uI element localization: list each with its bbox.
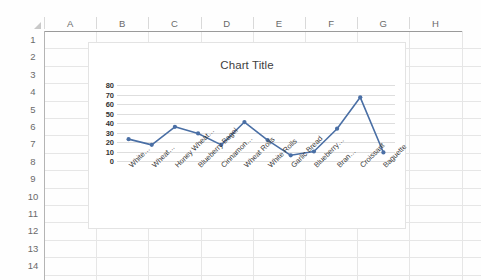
chart-x-axis-labels: White…Wheat…Honey Wheat…Blueberry BagelC…: [117, 163, 395, 225]
column-header-f[interactable]: F: [305, 16, 357, 31]
column-header-separator[interactable]: [253, 17, 254, 29]
column-header-a[interactable]: A: [44, 16, 96, 31]
column-header-separator[interactable]: [357, 17, 358, 29]
column-header-separator[interactable]: [96, 17, 97, 29]
row-header-1[interactable]: 1: [22, 31, 44, 48]
chart-y-tick-label: 40: [106, 119, 114, 128]
column-header-d[interactable]: D: [201, 16, 253, 31]
grid-line-horizontal: [44, 240, 481, 241]
column-header-e[interactable]: E: [253, 16, 305, 31]
column-header-c[interactable]: C: [148, 16, 200, 31]
chart-y-tick-label: 30: [106, 128, 114, 137]
row-header-11[interactable]: 11: [22, 205, 44, 222]
row-header-14[interactable]: 14: [22, 257, 44, 274]
row-header-3[interactable]: 3: [22, 66, 44, 83]
column-header-band: ABCDEFGH: [22, 16, 462, 31]
chart-y-tick-label: 60: [106, 100, 114, 109]
row-header-4[interactable]: 4: [22, 83, 44, 100]
row-header-9[interactable]: 9: [22, 170, 44, 187]
chart-data-point: Honey Wheat…: 36: [173, 125, 177, 129]
header-rule: [44, 31, 462, 32]
row-header-2[interactable]: 2: [22, 48, 44, 65]
chart-y-tick-label: 70: [106, 90, 114, 99]
chart-data-point: Wheat Rolls: 41: [242, 120, 246, 124]
spreadsheet-canvas: ABCDEFGH 1234567891011121314 Chart Title…: [0, 0, 481, 280]
column-header-h[interactable]: H: [409, 16, 461, 31]
grid-line-vertical: [462, 31, 463, 280]
chart-title[interactable]: Chart Title: [89, 59, 405, 71]
chart-y-tick-label: 10: [106, 147, 114, 156]
chart-data-point: Garlic Bread: 6: [289, 153, 293, 157]
chart-data-point: Wheat…: 17: [150, 143, 154, 147]
column-header-separator[interactable]: [305, 17, 306, 29]
row-header-13[interactable]: 13: [22, 240, 44, 257]
column-header-g[interactable]: G: [357, 16, 409, 31]
chart-y-tick-label: 20: [106, 138, 114, 147]
row-header-rule: [44, 31, 45, 280]
column-header-separator[interactable]: [44, 17, 45, 29]
row-header-12[interactable]: 12: [22, 222, 44, 239]
chart-y-tick-label: 0: [110, 157, 114, 166]
grid-line-vertical: [409, 31, 410, 280]
chart-y-tick-label: 80: [106, 81, 114, 90]
chart-y-tick-label: 50: [106, 109, 114, 118]
row-header-7[interactable]: 7: [22, 135, 44, 152]
row-header-5[interactable]: 5: [22, 101, 44, 118]
chart-data-point: White…: 23: [126, 137, 130, 141]
chart-data-point: Bran…: 34: [335, 127, 339, 131]
chart-data-point: Croissant: 67: [358, 95, 362, 99]
row-header-8[interactable]: 8: [22, 153, 44, 170]
column-header-separator[interactable]: [409, 17, 410, 29]
column-header-b[interactable]: B: [96, 16, 148, 31]
embedded-chart[interactable]: Chart Title 01020304050607080 White…: 23…: [88, 42, 406, 229]
grid-line-horizontal: [44, 257, 481, 258]
column-header-separator[interactable]: [148, 17, 149, 29]
column-header-separator[interactable]: [201, 17, 202, 29]
grid-line-horizontal: [44, 275, 481, 276]
row-header-6[interactable]: 6: [22, 118, 44, 135]
row-header-10[interactable]: 10: [22, 188, 44, 205]
